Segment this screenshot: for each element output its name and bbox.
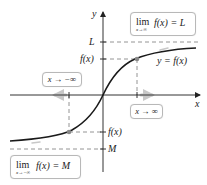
x-to-neg-inf-text: x → −∞ (48, 74, 76, 84)
point-lower (67, 130, 72, 135)
lim-expression: f(x) = L (154, 17, 185, 28)
lim-text: lim (136, 16, 149, 27)
point-upper (135, 57, 140, 62)
y-axis-label: y (92, 9, 96, 19)
lim-subscript: x→−∞ (16, 170, 30, 175)
x-axis-label: x (195, 99, 199, 109)
tick-label-fx-lower: f(x) (108, 127, 122, 137)
curve-right-arrow (160, 48, 168, 50)
tick-label-M: M (108, 144, 116, 154)
limit-minus-infinity-box: lim x→−∞ f(x) = M (10, 155, 81, 179)
tick-label-L: L (89, 37, 95, 47)
curve-left-arrow (32, 142, 40, 143)
x-to-neg-inf-box: x → −∞ (42, 72, 82, 87)
lim-subscript: x→∞ (136, 27, 147, 32)
x-to-pos-inf-text: x → ∞ (135, 106, 158, 116)
tick-label-fx-upper: f(x) (80, 54, 94, 64)
curve-label: y = f(x) (157, 56, 187, 66)
x-to-pos-inf-box: x → ∞ (130, 104, 163, 119)
lim-text: lim (16, 159, 29, 170)
limit-plus-infinity-box: lim x→∞ f(x) = L (130, 12, 196, 36)
lim-expression: f(x) = M (36, 160, 70, 171)
